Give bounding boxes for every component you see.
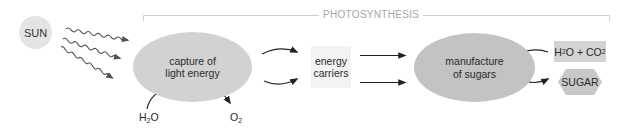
o2-output-label: O2 [230,111,242,123]
manufacture-label-line2: of sugars [453,68,496,81]
capture-to-carriers-top-arrow [262,49,297,54]
wavy-arrow-2 [63,38,120,58]
manufacture-label-line1: manufacture [445,55,503,68]
sun-label: SUN [24,27,47,39]
capture-light-energy-node: capture of light energy [133,32,252,102]
manufacture-sugars-node: manufacture of sugars [414,33,535,102]
capture-to-carriers-bottom-arrow [264,79,297,84]
wavy-arrow-1 [66,28,128,41]
photosynthesis-diagram: PHOTOSYNTHESIS SUN capture of light ener… [0,0,627,135]
h2o-co2-input-node: H2O + CO2 [554,41,606,62]
sugar-output-node: SUGAR [558,69,602,95]
sugar-label: SUGAR [561,76,598,88]
carriers-label-line1: energy [315,55,347,68]
sun-node: SUN [19,16,52,49]
light-wavy-arrows [61,28,128,78]
h2o-input-label: H2O [139,111,159,123]
capture-label-line1: capture of [169,55,216,68]
capture-label-line2: light energy [165,67,219,80]
carriers-label-line2: carriers [313,67,348,80]
photosynthesis-title: PHOTOSYNTHESIS [319,9,423,20]
energy-carriers-node: energy carriers [311,46,351,88]
